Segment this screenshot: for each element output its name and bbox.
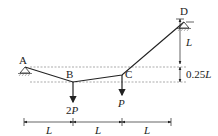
diagram-canvas: A B C D 2P P L 0.25L L L L: [0, 0, 218, 136]
dimension-label-horizontal-1: L: [45, 124, 52, 136]
node-label-b: B: [66, 68, 73, 80]
dimension-label-horizontal-2: L: [94, 124, 101, 136]
load-label-c: P: [117, 97, 125, 109]
cable-diagram: A B C D 2P P L 0.25L L L L: [0, 0, 218, 136]
node-label-a: A: [19, 54, 27, 66]
load-label-b: 2P: [66, 104, 79, 116]
node-label-c: C: [125, 68, 132, 80]
dimension-label-vertical-bottom: 0.25L: [186, 68, 211, 80]
node-label-d: D: [180, 5, 188, 17]
cable: [25, 22, 184, 82]
dimension-label-vertical-top: L: [185, 36, 192, 48]
dimension-label-horizontal-3: L: [143, 124, 150, 136]
